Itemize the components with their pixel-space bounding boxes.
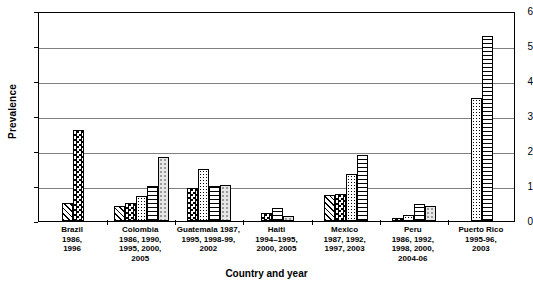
x-axis-title: Country and year bbox=[0, 268, 533, 279]
bar-group-bars bbox=[312, 13, 380, 221]
bar[interactable] bbox=[272, 208, 283, 221]
bar-group bbox=[107, 13, 175, 221]
bar[interactable] bbox=[187, 188, 198, 221]
bar[interactable] bbox=[147, 186, 158, 221]
y-axis-title: Prevalence bbox=[2, 0, 22, 222]
y-tick-mark bbox=[34, 222, 38, 223]
x-category-label-line: 1995-96, bbox=[435, 235, 528, 245]
bar[interactable] bbox=[158, 157, 169, 221]
bar[interactable] bbox=[414, 204, 425, 222]
x-axis-category-labels: Brazil1986,1996Colombia1986, 1990,1995, … bbox=[38, 225, 515, 270]
bar-group bbox=[380, 13, 448, 221]
bar[interactable] bbox=[114, 206, 125, 221]
x-category-label-line: 2004-06 bbox=[366, 254, 459, 264]
bar[interactable] bbox=[283, 216, 294, 221]
bar[interactable] bbox=[198, 169, 209, 222]
plot-area bbox=[38, 12, 515, 222]
bar[interactable] bbox=[392, 218, 403, 222]
bar[interactable] bbox=[403, 215, 414, 221]
bar-group bbox=[243, 13, 311, 221]
bar[interactable] bbox=[125, 203, 136, 221]
bar[interactable] bbox=[482, 36, 493, 222]
bar[interactable] bbox=[62, 203, 73, 221]
bar-group bbox=[175, 13, 243, 221]
bar[interactable] bbox=[209, 186, 220, 221]
bar-group bbox=[448, 13, 516, 221]
bar-group-bars bbox=[175, 13, 243, 221]
x-category-label-line: 2005 bbox=[94, 254, 187, 264]
prevalence-bar-chart: Prevalence 0123456 Brazil1986,1996Colomb… bbox=[0, 0, 533, 288]
bar[interactable] bbox=[73, 130, 84, 221]
bar[interactable] bbox=[261, 213, 272, 221]
bar[interactable] bbox=[335, 194, 346, 221]
bar[interactable] bbox=[471, 98, 482, 221]
x-category-label-line: 2003 bbox=[435, 244, 528, 254]
bar-group-bars bbox=[39, 13, 107, 221]
bar[interactable] bbox=[324, 195, 335, 221]
bar[interactable] bbox=[357, 155, 368, 222]
x-category-label: Puerto Rico1995-96,2003 bbox=[435, 225, 528, 254]
bar-group bbox=[39, 13, 107, 221]
x-category-label-line: Puerto Rico bbox=[435, 225, 528, 235]
bar-group bbox=[312, 13, 380, 221]
bar[interactable] bbox=[220, 185, 231, 221]
bar-group-bars bbox=[107, 13, 175, 221]
bar-group-bars bbox=[448, 13, 516, 221]
bar-group-bars bbox=[243, 13, 311, 221]
bar[interactable] bbox=[136, 196, 147, 221]
bar[interactable] bbox=[425, 206, 436, 221]
bar-group-bars bbox=[380, 13, 448, 221]
bar[interactable] bbox=[346, 174, 357, 221]
